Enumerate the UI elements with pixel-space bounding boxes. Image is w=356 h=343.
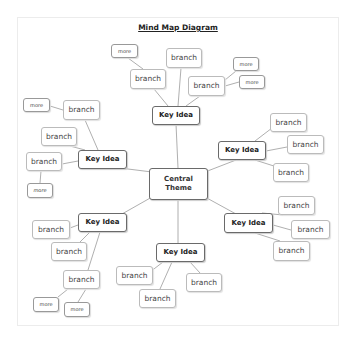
branch-node[interactable]: branch bbox=[26, 152, 62, 171]
branch-node[interactable]: branch bbox=[186, 273, 222, 292]
branch-node[interactable]: branch bbox=[139, 289, 176, 308]
branch-node[interactable]: branch bbox=[63, 100, 100, 120]
branch-node[interactable]: branch bbox=[130, 69, 166, 89]
branch-node[interactable]: branch bbox=[166, 48, 202, 68]
branch-node[interactable]: branch bbox=[51, 242, 87, 261]
central-theme-line1: Central bbox=[164, 175, 193, 184]
branch-node[interactable]: branch bbox=[188, 76, 225, 96]
more-node[interactable]: more bbox=[64, 302, 90, 317]
more-node[interactable]: more bbox=[239, 75, 265, 89]
more-node[interactable]: more bbox=[27, 183, 53, 198]
key-idea-left[interactable]: Key Idea bbox=[78, 150, 127, 169]
branch-node[interactable]: branch bbox=[291, 220, 330, 239]
branch-node[interactable]: branch bbox=[273, 163, 309, 182]
key-idea-bottom[interactable]: Key Idea bbox=[156, 243, 205, 262]
branch-node[interactable]: branch bbox=[273, 241, 310, 261]
branch-node[interactable]: branch bbox=[41, 127, 77, 146]
central-theme-node[interactable]: Central Theme bbox=[149, 168, 208, 200]
key-idea-bottom-left[interactable]: Key Idea bbox=[78, 213, 127, 232]
key-idea-top[interactable]: Key Idea bbox=[152, 106, 200, 125]
more-node[interactable]: more bbox=[33, 297, 59, 312]
more-node[interactable]: more bbox=[23, 98, 50, 112]
branch-node[interactable]: branch bbox=[287, 135, 324, 154]
branch-node[interactable]: branch bbox=[116, 266, 153, 285]
key-idea-right[interactable]: Key Idea bbox=[218, 141, 266, 160]
more-node[interactable]: more bbox=[111, 44, 138, 58]
branch-node[interactable]: branch bbox=[63, 270, 100, 289]
key-idea-bottom-right[interactable]: Key Idea bbox=[224, 213, 273, 233]
central-theme-line2: Theme bbox=[165, 184, 192, 193]
branch-node[interactable]: branch bbox=[278, 196, 315, 215]
branch-node[interactable]: branch bbox=[270, 113, 307, 132]
branch-node[interactable]: branch bbox=[32, 220, 70, 239]
more-node[interactable]: more bbox=[233, 57, 259, 71]
